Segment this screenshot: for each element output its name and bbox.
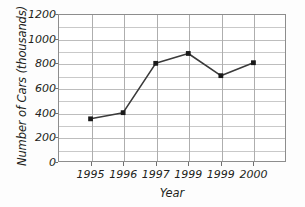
data-point-3 — [186, 51, 191, 56]
line-chart: Number of Cars (thousands) 0200400600800… — [0, 0, 305, 207]
x-tick-mark-2 — [156, 162, 157, 166]
series-line — [91, 53, 254, 118]
data-point-5 — [251, 60, 256, 65]
x-axis-title: Year — [58, 186, 286, 200]
data-point-1 — [121, 110, 126, 115]
x-tick-mark-4 — [221, 162, 222, 166]
series-markers — [88, 51, 256, 121]
data-point-0 — [88, 116, 93, 121]
data-point-4 — [218, 73, 223, 78]
x-tick-mark-5 — [253, 162, 254, 166]
x-tick-label-5: 2000 — [230, 168, 276, 181]
data-point-2 — [153, 61, 158, 66]
x-tick-mark-0 — [91, 162, 92, 166]
x-tick-mark-1 — [123, 162, 124, 166]
x-tick-mark-3 — [188, 162, 189, 166]
